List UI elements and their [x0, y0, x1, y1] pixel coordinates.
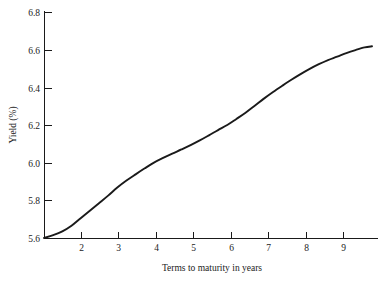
y-tick-label-6-8: 6.8	[28, 8, 40, 18]
yield-curve-chart: 6.8 6.6 6.4 6.2 6.0 5.8 5.6 2 3 4 5 6 7 …	[0, 0, 384, 282]
x-axis-title: Terms to maturity in years	[162, 263, 262, 273]
y-axis-title: Yield (%)	[8, 106, 19, 143]
x-tick-label-9: 9	[341, 243, 346, 253]
yield-curve-line	[44, 46, 372, 238]
x-axis-ticks	[82, 232, 344, 239]
y-tick-label-5-6: 5.6	[28, 234, 40, 244]
y-tick-label-6-2: 6.2	[28, 121, 40, 131]
x-tick-label-4: 4	[154, 243, 159, 253]
x-tick-label-5: 5	[191, 243, 196, 253]
y-tick-label-6-6: 6.6	[28, 46, 40, 56]
y-axis-ticks	[45, 13, 52, 239]
x-tick-label-7: 7	[266, 243, 271, 253]
y-tick-label-5-8: 5.8	[28, 196, 40, 206]
x-tick-label-8: 8	[304, 243, 309, 253]
x-tick-label-2: 2	[79, 243, 84, 253]
y-tick-label-6-0: 6.0	[28, 159, 40, 169]
x-tick-label-6: 6	[229, 243, 234, 253]
y-tick-label-6-4: 6.4	[28, 84, 40, 94]
chart-container: 6.8 6.6 6.4 6.2 6.0 5.8 5.6 2 3 4 5 6 7 …	[0, 0, 384, 282]
x-tick-label-3: 3	[116, 243, 121, 253]
